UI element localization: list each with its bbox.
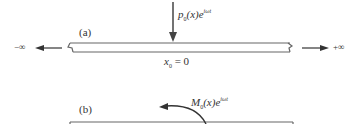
left-infinity-label: −∞ xyxy=(14,43,26,52)
right-infinity-arrow xyxy=(302,45,329,51)
left-infinity-arrow xyxy=(35,45,62,51)
infinite-beam-b xyxy=(70,122,293,124)
origin-label: x0 = 0 xyxy=(164,56,189,69)
right-infinity-label: +∞ xyxy=(333,43,345,52)
point-load-arrow xyxy=(169,2,177,42)
panel-a-label: (a) xyxy=(79,27,91,38)
panel-b-label: (b) xyxy=(79,104,92,115)
load-label: p0(x)eiωt xyxy=(178,8,211,22)
moment-label: M0(x)eiωt xyxy=(191,96,228,110)
infinite-beam-a xyxy=(68,43,292,52)
